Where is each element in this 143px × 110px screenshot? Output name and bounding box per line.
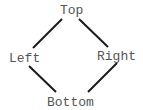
- node-right: Right: [97, 50, 136, 63]
- edge-right-bottom: [88, 63, 117, 92]
- diamond-diagram: Top Left Right Bottom: [0, 0, 143, 110]
- node-left: Left: [9, 52, 40, 65]
- edge-top-left: [33, 19, 62, 48]
- edge-left-bottom: [29, 66, 56, 92]
- edge-top-right: [79, 19, 108, 47]
- node-bottom: Bottom: [47, 96, 94, 109]
- node-top: Top: [60, 4, 83, 17]
